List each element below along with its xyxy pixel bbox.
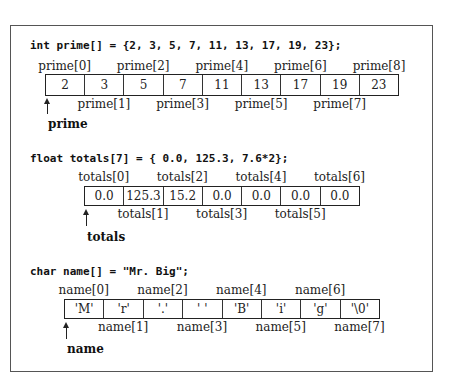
array-cell: 125.3	[124, 187, 163, 205]
index-label: name[6]	[295, 283, 345, 297]
array-cell: ' '	[183, 300, 222, 318]
array-cell: '.'	[144, 300, 183, 318]
prime-array: 2 3 5 7 11 13 17 19 23	[45, 74, 399, 96]
index-label: prime[3]	[156, 97, 209, 111]
index-label: prime[4]	[195, 59, 248, 73]
index-label: totals[1]	[117, 207, 168, 221]
name-array: 'M' 'r' '.' ' ' 'B' 'i' 'g' '\0'	[64, 299, 380, 319]
index-label: name[0]	[59, 283, 109, 297]
totals-array: 0.0 125.3 15.2 0.0 0.0 0.0 0.0	[84, 186, 360, 206]
index-label: totals[3]	[196, 207, 247, 221]
array-cell: 'M'	[65, 300, 104, 318]
index-label: name[4]	[216, 283, 266, 297]
array-cell: 13	[242, 75, 281, 95]
totals-declaration: float totals[7] = { 0.0, 125.3, 7.6*2};	[30, 152, 288, 166]
array-cell: 2	[46, 75, 85, 95]
index-label: prime[2]	[117, 59, 170, 73]
array-cell: 15.2	[164, 187, 203, 205]
array-cell: 5	[124, 75, 163, 95]
index-label: prime[1]	[78, 97, 131, 111]
up-arrow-icon	[86, 213, 87, 226]
array-cell: 23	[360, 75, 398, 95]
index-label: totals[2]	[157, 170, 208, 184]
array-cell: 3	[85, 75, 124, 95]
prime-declaration: int prime[] = {2, 3, 5, 7, 11, 13, 17, 1…	[30, 39, 341, 53]
index-label: name[5]	[256, 320, 306, 334]
pointer-label: name	[67, 342, 104, 356]
up-arrow-icon	[66, 326, 67, 339]
array-cell: '\0'	[341, 300, 379, 318]
name-declaration: char name[] = "Mr. Big";	[30, 265, 189, 279]
index-label: prime[8]	[353, 59, 406, 73]
index-label: prime[6]	[274, 59, 327, 73]
index-label: prime[5]	[235, 97, 288, 111]
index-label: totals[0]	[78, 170, 129, 184]
index-label: totals[5]	[275, 207, 326, 221]
array-cell: 'i'	[262, 300, 301, 318]
index-label: totals[6]	[314, 170, 365, 184]
pointer-label: totals	[87, 230, 125, 244]
index-label: name[7]	[334, 320, 384, 334]
array-cell: 0.0	[281, 187, 320, 205]
array-cell: 0.0	[85, 187, 124, 205]
index-label: prime[0]	[38, 59, 91, 73]
array-cell: 'g'	[301, 300, 340, 318]
array-cell: 19	[321, 75, 360, 95]
array-cell: 7	[164, 75, 203, 95]
pointer-label: prime	[48, 117, 88, 131]
index-label: prime[7]	[313, 97, 366, 111]
index-label: name[2]	[137, 283, 187, 297]
array-cell: 0.0	[321, 187, 359, 205]
array-cell: 11	[203, 75, 242, 95]
array-cell: 0.0	[203, 187, 242, 205]
index-label: name[3]	[177, 320, 227, 334]
array-cell: 'B'	[223, 300, 262, 318]
index-label: totals[4]	[235, 170, 286, 184]
array-cell: 'r'	[104, 300, 143, 318]
array-cell: 0.0	[242, 187, 281, 205]
up-arrow-icon	[47, 102, 48, 114]
index-label: name[1]	[98, 320, 148, 334]
array-cell: 17	[281, 75, 320, 95]
